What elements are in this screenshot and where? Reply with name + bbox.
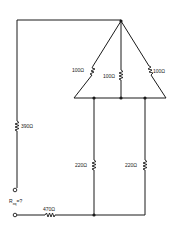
- resistor-delta-left: [90, 66, 95, 75]
- node-delta-center: [119, 96, 122, 99]
- resistor-bottom-series: [45, 213, 55, 217]
- label-delta-left: 100Ω: [72, 67, 84, 73]
- wire-right-vertical-2: [94, 170, 145, 215]
- label-delta-center: 100Ω: [103, 73, 115, 79]
- label-bottom-series: 470Ω: [43, 206, 55, 212]
- resistor-right-vertical: [143, 160, 147, 170]
- label-req-suffix: =?: [17, 198, 23, 204]
- wire-delta-left: [93, 21, 121, 66]
- circuit-diagram: 100Ω 100Ω 100Ω 390Ω 220Ω 220Ω 470Ω Req=?: [0, 0, 177, 230]
- label-mid-vertical: 220Ω: [75, 162, 87, 168]
- wire-top: [17, 20, 121, 121]
- label-right-vertical: 220Ω: [125, 162, 137, 168]
- label-left-vertical: 390Ω: [21, 123, 33, 129]
- resistor-delta-center: [119, 70, 123, 80]
- terminal-bottom[interactable]: [13, 213, 17, 217]
- resistor-left-vertical: [15, 121, 19, 131]
- wire-delta-right-2: [151, 75, 166, 98]
- label-req: Req=?: [9, 198, 22, 206]
- wire-delta-left-2: [74, 75, 92, 98]
- terminal-top[interactable]: [13, 188, 17, 192]
- resistor-mid-vertical: [92, 160, 96, 170]
- wire-delta-right: [121, 21, 149, 66]
- label-delta-right: 100Ω: [153, 68, 165, 74]
